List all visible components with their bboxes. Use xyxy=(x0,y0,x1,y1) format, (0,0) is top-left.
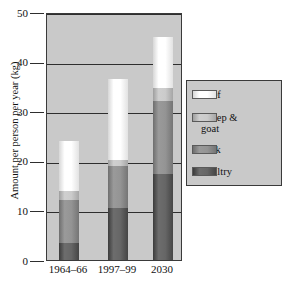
y-tick-0 xyxy=(30,261,44,262)
legend-item-poultry: Poultry xyxy=(192,166,232,177)
chart-legend: BeefSheep & goatPorkPoultry xyxy=(186,80,282,186)
y-tick-50 xyxy=(30,13,44,14)
bar-segment-pork xyxy=(108,166,128,209)
y-tick-label-40: 40 xyxy=(2,57,28,67)
bar-segment-poultry xyxy=(108,208,128,260)
plot-area xyxy=(46,13,182,261)
y-tick-label-30: 30 xyxy=(2,107,28,117)
legend-item-sheep: Sheep & goat xyxy=(192,112,237,134)
y-tick-label-0: 0 xyxy=(2,256,28,266)
bar-segment-sheep xyxy=(108,160,128,166)
y-tick-40 xyxy=(30,63,44,64)
y-tick-label-50: 50 xyxy=(2,8,28,18)
y-tick-label-20: 20 xyxy=(2,156,28,166)
legend-item-beef: Beef xyxy=(192,89,221,100)
bar-segment-sheep xyxy=(59,191,79,201)
y-tick-30 xyxy=(30,112,44,113)
bar-2030 xyxy=(153,12,173,260)
bar-segment-poultry xyxy=(59,243,79,260)
bar-1997-99 xyxy=(108,12,128,260)
bar-segment-beef xyxy=(153,37,173,89)
bar-segment-pork xyxy=(153,101,173,174)
bar-segment-beef xyxy=(108,79,128,160)
bar-segment-pork xyxy=(59,200,79,243)
legend-swatch-beef-icon xyxy=(192,90,217,99)
legend-item-pork: Pork xyxy=(192,144,221,155)
y-tick-10 xyxy=(30,211,44,212)
bar-segment-poultry xyxy=(153,174,173,260)
bar-segment-beef xyxy=(59,141,79,191)
y-tick-label-10: 10 xyxy=(2,206,28,216)
bar-segment-sheep xyxy=(153,88,173,101)
legend-swatch-pork-icon xyxy=(192,145,217,154)
chart-figure: Amount per person per year (kg) BeefShee… xyxy=(0,0,286,285)
y-tick-20 xyxy=(30,162,44,163)
legend-swatch-poultry-icon xyxy=(192,167,217,176)
legend-swatch-sheep-icon xyxy=(192,113,217,122)
x-tick-label-2030: 2030 xyxy=(132,263,192,275)
bar-1964-66 xyxy=(59,12,79,260)
plot-inner xyxy=(47,14,181,260)
